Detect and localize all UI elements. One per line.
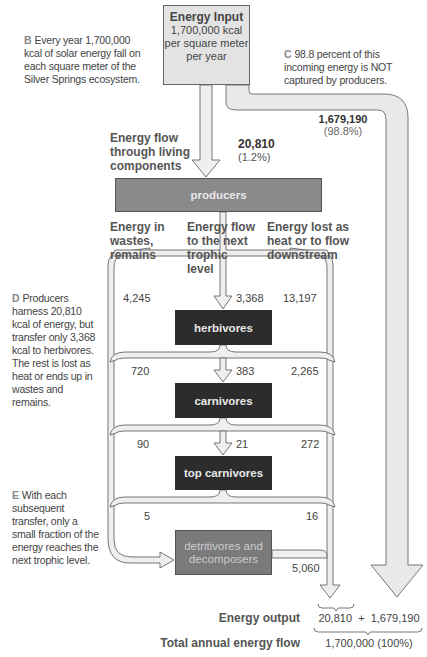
energy-input-title: Energy Input: [164, 10, 249, 24]
header-wastes: Energy in wastes, remains: [110, 220, 170, 262]
herbivores-heat-value: 2,265: [291, 365, 319, 377]
captured-energy-label: 20,810 (1.2%): [238, 137, 275, 163]
producers-box: producers: [115, 178, 322, 212]
top-carnivores-wastes-value: 5: [144, 510, 150, 522]
energy-output-label: Energy output: [190, 611, 300, 625]
uncaptured-energy-label: 1,679,190 (98.8%): [303, 113, 383, 137]
carnivores-box: carnivores: [175, 383, 272, 418]
carnivores-wastes-value: 90: [137, 438, 149, 450]
energy-input-line3: per year: [164, 50, 249, 63]
total-flow-label: Total annual energy flow: [150, 636, 300, 650]
header-heat-loss: Energy lost as heat or to flow downstrea…: [267, 220, 352, 262]
herbivores-box: herbivores: [175, 310, 272, 345]
energy-input-line1: 1,700,000 kcal: [164, 24, 249, 37]
producers-next-value: 3,368: [236, 292, 264, 304]
energy-output-value: 20,810 + 1,679,190: [314, 612, 424, 624]
note-c: C98.8 percent of this incoming energy is…: [284, 48, 404, 87]
note-d: DProducers harness 20,810 kcal of energy…: [12, 292, 100, 409]
energy-input-line2: per square meter: [164, 37, 249, 50]
carnivores-heat-value: 272: [301, 438, 319, 450]
herbivores-next-value: 383: [236, 365, 254, 377]
detritivores-heat-value: 5,060: [292, 562, 320, 574]
header-next-level: Energy flow to the next trophic level: [187, 220, 257, 276]
energy-input-box: Energy Input 1,700,000 kcal per square m…: [163, 5, 250, 85]
herbivores-wastes-value: 720: [131, 365, 149, 377]
producers-wastes-value: 4,245: [123, 292, 151, 304]
detritivores-box: detritivores and decomposers: [175, 530, 272, 575]
top-carnivores-heat-value: 16: [306, 510, 318, 522]
note-e: EWith each subsequent transfer, only a s…: [12, 489, 100, 567]
top-carnivores-box: top carnivores: [175, 456, 272, 490]
note-b: BEvery year 1,700,000 kcal of solar ener…: [24, 34, 144, 86]
header-living-flow: Energy flow through living components: [110, 131, 205, 173]
total-flow-value: 1,700,000 (100%): [314, 637, 424, 649]
carnivores-next-value: 21: [236, 438, 248, 450]
producers-heat-value: 13,197: [283, 292, 317, 304]
